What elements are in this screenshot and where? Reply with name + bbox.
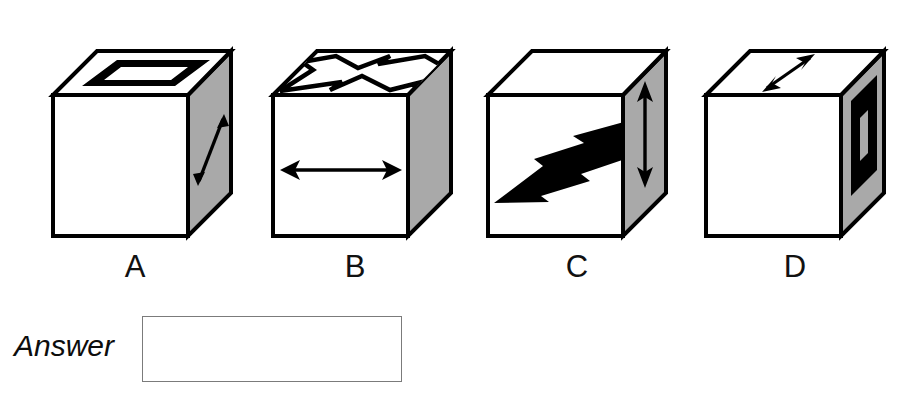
cube-d-front-face xyxy=(706,95,841,236)
answer-label: Answer xyxy=(14,328,114,364)
cube-option-a[interactable] xyxy=(20,18,250,268)
question-figure-page: A xyxy=(0,0,918,402)
cube-option-c[interactable] xyxy=(470,18,700,268)
cube-option-b-label: B xyxy=(240,248,470,286)
cube-option-a-label: A xyxy=(20,248,250,286)
cube-option-d[interactable] xyxy=(688,18,918,268)
cube-option-c-label: C xyxy=(462,248,692,286)
cube-option-d-label: D xyxy=(680,248,910,286)
cube-option-b[interactable] xyxy=(250,18,480,268)
answer-row: Answer xyxy=(0,300,918,400)
answer-input[interactable] xyxy=(142,316,402,382)
cube-a-front-face xyxy=(53,95,188,236)
